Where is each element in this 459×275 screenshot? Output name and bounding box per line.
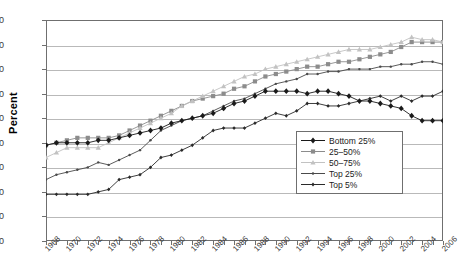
y-tick-label: 30 [0, 162, 4, 172]
x-tick-mark [286, 241, 287, 245]
y-tick-mark [42, 192, 46, 193]
gridline [47, 95, 442, 96]
legend-label: Bottom 25% [329, 136, 375, 146]
x-tick-mark [245, 241, 246, 245]
x-tick-mark [328, 241, 329, 245]
x-tick-mark [349, 241, 350, 245]
chart-legend: Bottom 25%25–50%50–75%Top 25%Top 5% [296, 131, 403, 194]
y-tick-mark [42, 118, 46, 119]
legend-swatch-icon [300, 179, 326, 190]
y-tick-label: 0 [0, 236, 4, 246]
y-tick-mark [42, 94, 46, 95]
legend-label: 25–50% [329, 147, 360, 157]
x-tick-mark [77, 241, 78, 245]
x-tick-mark [203, 241, 204, 245]
y-tick-label: 80 [0, 40, 4, 50]
y-tick-label: 10 [0, 211, 4, 221]
legend-item-top-25: Top 25% [300, 168, 398, 179]
y-tick-label: 50 [0, 113, 4, 123]
gridline [47, 119, 442, 120]
legend-swatch-icon [300, 146, 326, 157]
legend-item-50-75: 50–75% [300, 157, 398, 168]
y-tick-label: 70 [0, 64, 4, 74]
x-tick-mark [98, 241, 99, 245]
x-tick-mark [307, 241, 308, 245]
gridline [47, 70, 442, 71]
x-tick-mark [224, 241, 225, 245]
legend-item-bottom-25: Bottom 25% [300, 135, 398, 146]
y-tick-mark [42, 143, 46, 144]
legend-label: Top 5% [329, 180, 357, 190]
x-tick-mark [265, 241, 266, 245]
legend-swatch-icon [300, 168, 326, 179]
gridline [47, 217, 442, 218]
x-tick-mark [119, 241, 120, 245]
gridline [47, 46, 442, 47]
x-tick-mark [182, 241, 183, 245]
y-tick-mark [42, 20, 46, 21]
line-chart: Percent 0102030405060708090 196819701972… [0, 0, 459, 275]
y-tick-label: 60 [0, 89, 4, 99]
y-tick-mark [42, 45, 46, 46]
legend-label: 50–75% [329, 158, 360, 168]
x-tick-mark [161, 241, 162, 245]
y-tick-label: 20 [0, 187, 4, 197]
y-tick-label: 40 [0, 138, 4, 148]
y-tick-mark [42, 69, 46, 70]
x-tick-mark [412, 241, 413, 245]
y-tick-mark [42, 167, 46, 168]
x-tick-mark [140, 241, 141, 245]
x-tick-mark [370, 241, 371, 245]
y-tick-mark [42, 216, 46, 217]
legend-item-top-5: Top 5% [300, 179, 398, 190]
legend-swatch-icon [300, 135, 326, 146]
y-axis-title: Percent [4, 78, 22, 148]
y-tick-label: 90 [0, 15, 4, 25]
legend-label: Top 25% [329, 169, 362, 179]
x-tick-mark [56, 241, 57, 245]
x-tick-mark [391, 241, 392, 245]
x-tick-mark [433, 241, 434, 245]
legend-item-25-50: 25–50% [300, 146, 398, 157]
legend-swatch-icon [300, 157, 326, 168]
